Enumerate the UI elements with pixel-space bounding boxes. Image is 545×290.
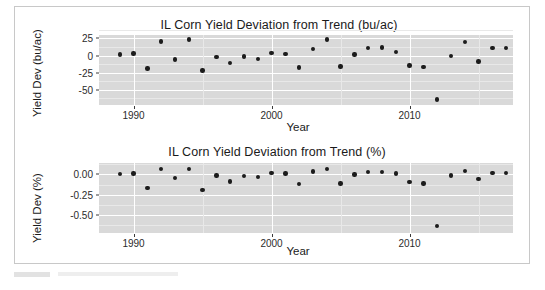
x-tick-label: 2010 xyxy=(398,110,420,121)
y-tick-label: -0.25 xyxy=(70,189,93,200)
x-tick-mark xyxy=(410,106,411,109)
chart-yield-dev-bu-ac: IL Corn Yield Deviation from Trend (bu/a… xyxy=(15,9,531,137)
x-tick-label: 2010 xyxy=(398,238,420,249)
y-tick-label: -0.50 xyxy=(70,210,93,221)
axes-top: 250-25-50199020002010 xyxy=(15,9,531,137)
y-tick-label: -50 xyxy=(79,84,93,95)
y-tick-mark xyxy=(96,215,99,216)
figure-frame: IL Corn Yield Deviation from Trend (bu/a… xyxy=(14,6,530,264)
y-tick-mark xyxy=(96,174,99,175)
x-tick-mark xyxy=(410,234,411,237)
y-tick-mark xyxy=(96,55,99,56)
x-tick-label: 1990 xyxy=(122,110,144,121)
y-tick-label: -25 xyxy=(79,67,93,78)
x-tick-mark xyxy=(134,106,135,109)
y-tick-mark xyxy=(96,72,99,73)
x-tick-mark xyxy=(272,106,273,109)
y-tick-mark xyxy=(96,194,99,195)
x-tick-label: 2000 xyxy=(260,110,282,121)
decorative-strip-left xyxy=(14,272,50,277)
x-tick-mark xyxy=(272,234,273,237)
chart-yield-dev-pct: IL Corn Yield Deviation from Trend (%) Y… xyxy=(15,139,531,263)
y-tick-mark xyxy=(96,89,99,90)
y-tick-label: 0 xyxy=(87,50,93,61)
y-tick-label: 25 xyxy=(82,33,93,44)
x-tick-label: 2000 xyxy=(260,238,282,249)
y-tick-label: 0.00 xyxy=(74,169,93,180)
y-tick-mark xyxy=(96,38,99,39)
axes-bottom: 0.00-0.25-0.50199020002010 xyxy=(15,139,531,263)
x-tick-mark xyxy=(134,234,135,237)
x-tick-label: 1990 xyxy=(122,238,144,249)
decorative-strip-right xyxy=(58,272,178,276)
